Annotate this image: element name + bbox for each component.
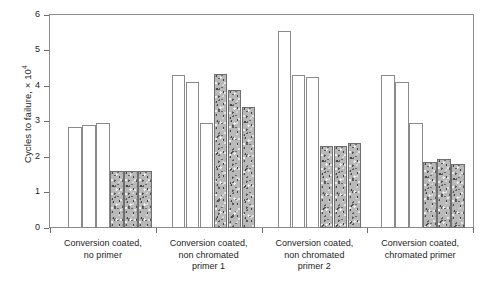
y-axis-tick-label: 5 [22,44,40,54]
y-axis-title-exponent: 4 [21,65,28,69]
y-axis-tick-label: 6 [22,9,40,19]
bar [138,171,152,228]
bar [409,123,423,228]
x-axis-separator [50,228,51,233]
bar [395,82,409,228]
x-axis-group-label: Conversion coated,no primer [50,238,156,261]
y-axis-tick-label: 3 [22,115,40,125]
y-axis-tick-label: 1 [22,186,40,196]
bar [437,159,451,228]
x-axis-group-label-line: primer 1 [156,261,262,273]
bar [381,75,395,228]
y-axis-tick-label: 4 [22,80,40,90]
bar-chart: Cycles to failure, × 104 0123456 Convers… [0,0,483,281]
bar [172,75,186,228]
y-axis-tick-label: 2 [22,151,40,161]
x-axis-separator [156,228,157,233]
bar [68,127,82,228]
bar [292,75,306,228]
x-axis-group-label-line: no primer [50,250,156,262]
x-axis-group-label-line: Conversion coated, [367,238,473,250]
x-axis-group-label-line: Conversion coated, [262,238,368,250]
x-axis-group-label-line: non chromated [262,250,368,262]
bar [348,143,362,228]
bar [186,82,200,228]
bar [200,123,214,228]
x-axis-group-label-line: Conversion coated, [50,238,156,250]
x-axis-separator [473,228,474,233]
bar [96,123,110,228]
x-axis-group-label-line: non chromated [156,250,262,262]
bar [242,107,256,228]
bar [124,171,138,228]
x-axis-group-label: Conversion coated,non chromatedprimer 1 [156,238,262,273]
x-axis-group-label: Conversion coated,chromated primer [367,238,473,261]
bar [451,164,465,228]
x-axis-separator [367,228,368,233]
bar [214,74,228,228]
y-axis-tick-label: 0 [22,222,40,232]
x-axis-group-label-line: chromated primer [367,250,473,262]
bar [306,77,320,228]
x-axis-group-label: Conversion coated,non chromatedprimer 2 [262,238,368,273]
x-axis-separator [262,228,263,233]
x-axis-group-label-line: Conversion coated, [156,238,262,250]
bar [423,162,437,228]
bar [228,90,242,228]
bar [278,31,292,228]
bar [334,146,348,228]
bars-layer [50,15,473,228]
bar [110,171,124,228]
x-axis-group-label-line: primer 2 [262,261,368,273]
bar [320,146,334,228]
bar [82,125,96,228]
